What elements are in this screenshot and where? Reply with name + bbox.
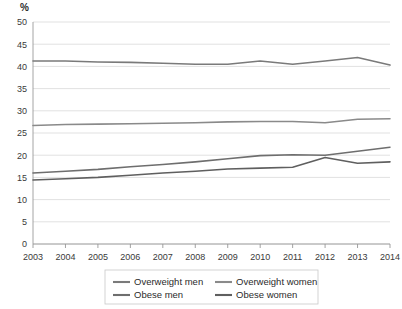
series-lines	[33, 58, 390, 181]
grid-lines	[33, 22, 390, 244]
series-line-overweight-women	[33, 119, 390, 126]
line-chart: 05101520253035404550 2003200420052006200…	[0, 0, 402, 309]
x-tick-label-2011: 2011	[283, 252, 302, 262]
y-tick-label-50: 50	[17, 17, 27, 27]
x-tick-label-2003: 2003	[23, 252, 43, 262]
y-tick-label-45: 45	[17, 40, 27, 50]
y-tick-label-10: 10	[17, 195, 27, 205]
x-axis-ticks: 2003200420052006200720082009201020112012…	[23, 244, 400, 262]
x-tick-label-2005: 2005	[88, 252, 108, 262]
legend-label-overweight-men: Overweight men	[134, 276, 203, 287]
y-tick-label-30: 30	[17, 106, 27, 116]
x-tick-label-2010: 2010	[250, 252, 270, 262]
legend-label-overweight-women: Overweight women	[236, 276, 317, 287]
y-axis-unit-label: %	[20, 2, 29, 13]
y-tick-label-0: 0	[22, 239, 27, 249]
y-axis-ticks: 05101520253035404550	[17, 17, 27, 249]
y-tick-label-25: 25	[17, 128, 27, 138]
x-tick-label-2004: 2004	[55, 252, 75, 262]
x-tick-label-2013: 2013	[348, 252, 368, 262]
x-tick-label-2009: 2009	[218, 252, 238, 262]
y-tick-label-5: 5	[22, 217, 27, 227]
x-tick-label-2007: 2007	[153, 252, 173, 262]
chart-legend: Overweight menOverweight womenObese menO…	[105, 270, 318, 304]
x-tick-label-2008: 2008	[185, 252, 205, 262]
y-tick-label-35: 35	[17, 84, 27, 94]
series-line-overweight-men	[33, 58, 390, 66]
y-tick-label-40: 40	[17, 62, 27, 72]
x-tick-label-2012: 2012	[315, 252, 335, 262]
chart-container: 05101520253035404550 2003200420052006200…	[0, 0, 402, 309]
y-tick-label-15: 15	[17, 173, 27, 183]
x-tick-label-2014: 2014	[380, 252, 400, 262]
legend-label-obese-women: Obese women	[236, 289, 297, 300]
y-tick-label-20: 20	[17, 151, 27, 161]
x-tick-label-2006: 2006	[120, 252, 140, 262]
legend-label-obese-men: Obese men	[134, 289, 183, 300]
